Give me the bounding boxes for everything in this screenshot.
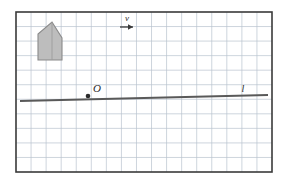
velocity-label: v — [125, 13, 129, 23]
figure-root: v O l — [0, 0, 285, 180]
line-l-label: l — [242, 83, 245, 94]
geometry-figure-canvas: v O l — [0, 0, 285, 180]
origin-label: O — [93, 82, 101, 94]
origin-dot — [86, 94, 91, 99]
